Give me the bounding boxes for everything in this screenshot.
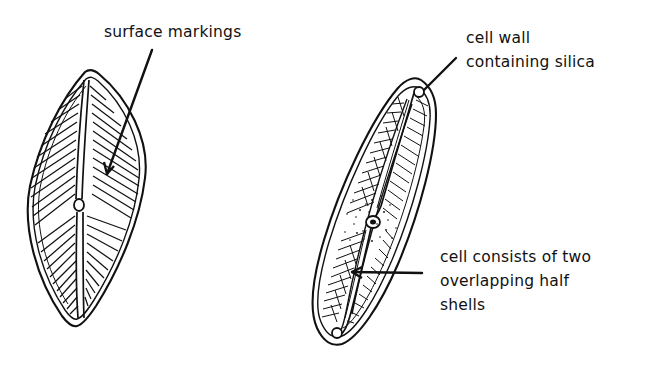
- leader-cell-wall: [424, 58, 456, 90]
- left-diatom-raphe-right-lower: [83, 212, 84, 318]
- left-diatom-valve-view: [28, 70, 146, 326]
- label-half-shells-line-1: cell consists of two: [440, 248, 591, 266]
- label-half-shells-line-3: shells: [440, 293, 591, 317]
- label-cell-wall-line-1: cell wall: [466, 29, 530, 47]
- label-surface-markings: surface markings: [104, 20, 241, 44]
- figure-canvas: surface markings cell wall containing si…: [0, 0, 658, 375]
- label-cell-wall-line-2: containing silica: [466, 50, 595, 74]
- right-diatom-polar-nodule-bottom: [332, 328, 342, 338]
- left-diatom-central-nodule: [74, 199, 84, 211]
- label-cell-wall: cell wall containing silica: [466, 26, 595, 74]
- right-diatom-tilted-view: [313, 78, 436, 344]
- label-half-shells: cell consists of two overlapping half sh…: [440, 245, 591, 317]
- label-half-shells-line-2: overlapping half: [440, 269, 591, 293]
- label-surface-markings-line-1: surface markings: [104, 23, 241, 41]
- right-diatom-central-nodule: [366, 216, 380, 228]
- left-diatom-striae-right: [85, 86, 139, 306]
- right-diatom-polar-nodule-top: [414, 87, 424, 97]
- left-diatom-raphe-left-lower: [76, 212, 78, 318]
- right-diatom-striae-outer: [347, 100, 428, 323]
- right-diatom-outer-outline: [313, 78, 436, 344]
